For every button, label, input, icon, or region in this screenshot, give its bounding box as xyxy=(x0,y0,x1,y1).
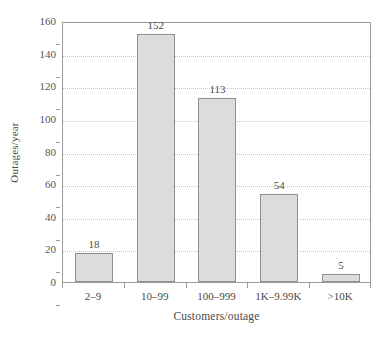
bar-value-label: 18 xyxy=(88,239,99,250)
y-axis-tick-label: 80 xyxy=(24,147,56,158)
x-axis-tick-labels: 2–910–99100–9991K–9.99K>10K xyxy=(62,290,371,306)
bar-value-label: 54 xyxy=(274,180,285,191)
bar-value-label: 113 xyxy=(209,84,225,95)
y-axis-tick-mark xyxy=(56,175,60,176)
bar-value-label: 152 xyxy=(147,20,164,31)
x-axis-tick-label: 100–999 xyxy=(197,290,236,303)
bar[interactable] xyxy=(322,274,360,282)
plot-area: 18152113545 xyxy=(62,22,371,283)
y-axis-tick-label: 100 xyxy=(24,114,56,125)
x-axis-tick-marks xyxy=(62,283,371,289)
x-axis-tick-label: 1K–9.99K xyxy=(255,290,301,303)
x-axis-tick-label: >10K xyxy=(328,290,353,303)
x-axis-tick-mark xyxy=(186,283,187,288)
bar-slot: 152 xyxy=(125,23,187,282)
bar-slot: 113 xyxy=(187,23,249,282)
x-axis-tick-mark xyxy=(124,283,125,288)
x-axis-tick-mark xyxy=(62,283,63,288)
bar-chart-figure: Outages/year 020406080100120140160 18152… xyxy=(0,0,389,338)
bar-slot: 5 xyxy=(310,23,372,282)
x-axis-tick-label: 10–99 xyxy=(141,290,169,303)
x-axis-tick-mark xyxy=(309,283,310,288)
x-axis-tick-mark xyxy=(370,283,371,288)
y-axis-tick-label: 40 xyxy=(24,212,56,223)
y-axis-tick-mark xyxy=(56,240,60,241)
bar-slot: 18 xyxy=(63,23,125,282)
y-axis-tick-label: 140 xyxy=(24,49,56,60)
bars-layer: 18152113545 xyxy=(63,23,370,282)
bar-slot: 54 xyxy=(248,23,310,282)
bar[interactable] xyxy=(75,253,113,282)
x-axis-tick-mark xyxy=(247,283,248,288)
y-axis-tick-mark xyxy=(56,109,60,110)
y-axis-title: Outages/year xyxy=(8,22,22,283)
y-axis-tick-label: 60 xyxy=(24,179,56,190)
y-axis-tick-label: 20 xyxy=(24,244,56,255)
y-axis-tick-label: 120 xyxy=(24,81,56,92)
bar[interactable] xyxy=(260,194,298,282)
y-axis-tick-labels: 020406080100120140160 xyxy=(24,22,56,283)
bar-value-label: 5 xyxy=(338,260,344,271)
y-axis-tick-mark xyxy=(56,272,60,273)
x-axis-title: Customers/outage xyxy=(62,310,371,322)
y-axis-tick-label: 160 xyxy=(24,16,56,27)
x-axis-tick-label: 2–9 xyxy=(85,290,102,303)
bar[interactable] xyxy=(198,98,236,282)
y-axis-tick-label: 0 xyxy=(24,277,56,288)
y-axis-tick-mark xyxy=(56,142,60,143)
y-axis-tick-mark xyxy=(56,44,60,45)
y-axis-tick-mark xyxy=(56,207,60,208)
bar[interactable] xyxy=(137,34,175,282)
y-axis-tick-mark xyxy=(56,305,60,306)
y-axis-tick-mark xyxy=(56,77,60,78)
